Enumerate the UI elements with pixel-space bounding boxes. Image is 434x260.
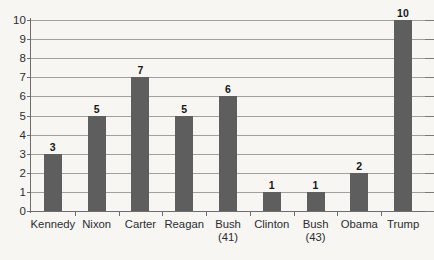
x-axis-category-label: Carter [125, 218, 156, 231]
bar [394, 20, 412, 211]
y-axis-label: 2 [20, 167, 27, 179]
y-axis-tick [27, 96, 31, 97]
bar-value-label: 5 [181, 103, 187, 115]
right-axis-tick [425, 39, 434, 40]
gridline [31, 39, 425, 40]
bar [175, 116, 193, 212]
right-axis-tick [425, 154, 434, 155]
x-axis-tick [294, 211, 295, 216]
bar-value-label: 6 [225, 83, 231, 95]
x-axis-tick [250, 211, 251, 216]
y-axis-tick [27, 20, 31, 21]
bar [131, 77, 149, 211]
x-axis-category-label: Kennedy [31, 218, 76, 231]
right-axis-tick [425, 58, 434, 59]
y-axis-label: 1 [20, 186, 27, 198]
y-axis-tick [27, 58, 31, 59]
y-axis-tick [27, 211, 31, 212]
y-axis-tick [27, 154, 31, 155]
x-axis-category-label: Obama [341, 218, 378, 231]
x-axis-tick [119, 211, 120, 216]
right-axis-tick [425, 96, 434, 97]
right-axis-tick [425, 20, 434, 21]
bar-value-label: 1 [313, 179, 319, 191]
x-axis-category-label: Bush(41) [215, 218, 241, 243]
bar-value-label: 5 [94, 103, 100, 115]
gridline [31, 77, 425, 78]
bar [307, 192, 325, 211]
right-axis-tick [425, 211, 434, 212]
right-axis-tick [425, 77, 434, 78]
y-axis-tick [27, 173, 31, 174]
y-axis-label: 5 [20, 110, 27, 122]
y-axis-label: 9 [20, 33, 27, 45]
y-axis-label: 3 [20, 148, 27, 160]
bar [350, 173, 368, 211]
bar [88, 116, 106, 212]
x-axis-category-label: Nixon [82, 218, 111, 231]
x-axis-tick [162, 211, 163, 216]
bar-value-label: 7 [137, 64, 143, 76]
x-axis-category-label: Reagan [164, 218, 204, 231]
right-axis-tick [425, 135, 434, 136]
right-axis-tick [425, 173, 434, 174]
bar-value-label: 10 [397, 7, 409, 19]
y-axis-tick [27, 116, 31, 117]
bar [263, 192, 281, 211]
y-axis-label: 8 [20, 52, 27, 64]
x-axis-category-label: Clinton [254, 218, 289, 231]
y-axis-tick [27, 77, 31, 78]
x-axis-tick [337, 211, 338, 216]
y-axis-tick [27, 135, 31, 136]
y-axis-label: 4 [20, 129, 27, 141]
gridline [31, 58, 425, 59]
bar-value-label: 3 [50, 141, 56, 153]
x-axis-tick [206, 211, 207, 216]
gridline [31, 20, 425, 21]
y-axis-label: 10 [13, 14, 26, 26]
y-axis-label: 0 [20, 205, 27, 217]
bar [219, 96, 237, 211]
bar-value-label: 2 [356, 160, 362, 172]
x-axis-category-label: Bush(43) [303, 218, 329, 243]
right-axis-tick [425, 192, 434, 193]
y-axis-tick [27, 39, 31, 40]
plot-area: 3575611210 [31, 20, 425, 211]
x-axis-tick [75, 211, 76, 216]
bar [44, 154, 62, 211]
x-axis-category-label: Trump [387, 218, 419, 231]
right-axis-tick [425, 116, 434, 117]
x-axis-tick [381, 211, 382, 216]
y-axis-label: 6 [20, 90, 27, 102]
bar-value-label: 1 [269, 179, 275, 191]
y-axis-tick [27, 192, 31, 193]
y-axis-label: 7 [20, 71, 27, 83]
